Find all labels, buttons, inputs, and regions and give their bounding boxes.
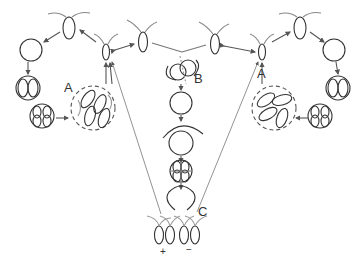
label-a-left: A [64,80,73,95]
life-cycle-diagram: A A B C + − [0,0,363,261]
label-a-right: A [257,66,266,81]
sexual-cycle [112,20,258,244]
left-asexual-cycle [16,13,118,131]
label-minus: − [186,244,192,255]
label-b: B [194,71,203,86]
label-c: C [198,204,207,219]
label-plus: + [160,246,166,257]
diagram-canvas [0,0,363,261]
